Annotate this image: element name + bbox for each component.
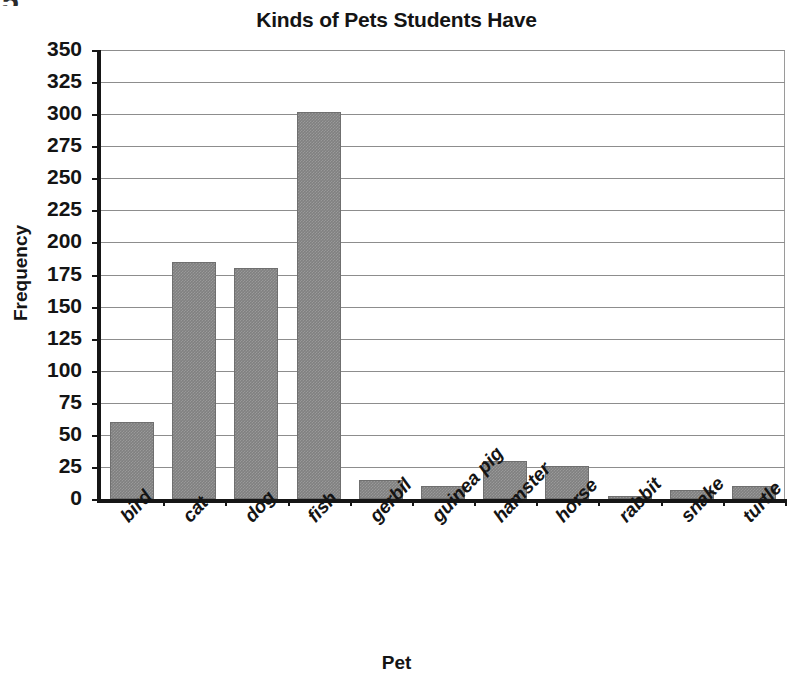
y-tick-mark	[92, 275, 101, 277]
x-tick-mark	[163, 499, 165, 506]
gridline	[101, 82, 785, 83]
bar	[110, 422, 154, 499]
x-tick-mark	[536, 499, 538, 506]
x-tick-mark	[598, 499, 600, 506]
bar-chart: Kinds of Pets Students Have Frequency 02…	[0, 0, 793, 675]
gridline	[101, 178, 785, 179]
y-tick-label: 250	[0, 165, 82, 189]
y-tick-mark	[92, 82, 101, 84]
plot-area: 0255075100125150175200225250275300325350	[97, 50, 785, 503]
y-tick-label: 350	[0, 37, 82, 61]
y-tick-mark	[92, 435, 101, 437]
y-tick-mark	[92, 499, 101, 501]
x-tick-mark	[474, 499, 476, 506]
y-tick-label: 125	[0, 326, 82, 350]
y-tick-label: 25	[0, 454, 82, 478]
y-tick-label: 75	[0, 390, 82, 414]
gridline	[101, 114, 785, 115]
y-tick-label: 175	[0, 262, 82, 286]
x-axis-title: Pet	[0, 652, 793, 674]
y-tick-mark	[92, 307, 101, 309]
y-tick-mark	[92, 242, 101, 244]
y-tick-label: 100	[0, 358, 82, 382]
gridline	[101, 210, 785, 211]
x-tick-mark	[225, 499, 227, 506]
y-tick-label: 200	[0, 229, 82, 253]
x-tick-mark	[288, 499, 290, 506]
y-tick-label: 300	[0, 101, 82, 125]
gridline	[101, 146, 785, 147]
bar	[234, 268, 278, 499]
x-tick-mark	[785, 499, 787, 506]
x-tick-mark	[661, 499, 663, 506]
bar	[297, 112, 341, 499]
x-tick-mark	[723, 499, 725, 506]
y-tick-mark	[92, 50, 101, 52]
y-tick-label: 150	[0, 294, 82, 318]
y-tick-label: 275	[0, 133, 82, 157]
y-tick-mark	[92, 467, 101, 469]
y-tick-mark	[92, 403, 101, 405]
y-tick-mark	[92, 178, 101, 180]
y-tick-mark	[92, 339, 101, 341]
chart-title: Kinds of Pets Students Have	[0, 8, 793, 32]
y-tick-label: 0	[0, 486, 82, 510]
y-tick-label: 325	[0, 69, 82, 93]
y-tick-mark	[92, 114, 101, 116]
y-tick-mark	[92, 371, 101, 373]
bar	[172, 262, 216, 499]
y-tick-mark	[92, 210, 101, 212]
gridline	[101, 50, 785, 51]
gridline	[101, 242, 785, 243]
y-tick-label: 225	[0, 197, 82, 221]
x-tick-mark	[350, 499, 352, 506]
y-tick-mark	[92, 146, 101, 148]
x-tick-mark	[412, 499, 414, 506]
y-tick-label: 50	[0, 422, 82, 446]
